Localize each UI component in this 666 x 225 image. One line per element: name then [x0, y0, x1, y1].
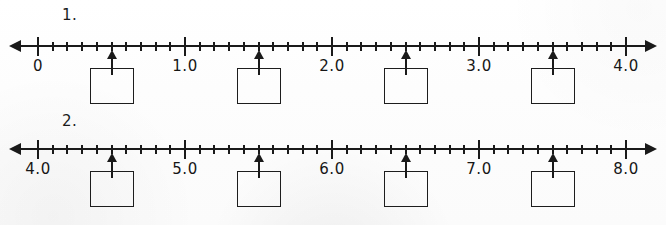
minor-tick	[375, 145, 377, 154]
minor-tick	[272, 42, 274, 51]
minor-tick	[596, 145, 598, 154]
minor-tick	[346, 42, 348, 51]
axis-tick-label: 2.0	[319, 57, 344, 75]
minor-tick	[316, 145, 318, 154]
minor-tick	[507, 42, 509, 51]
major-tick	[184, 140, 186, 159]
right-arrowhead-icon	[645, 143, 657, 155]
major-tick	[625, 140, 627, 159]
left-arrowhead-icon	[9, 143, 21, 155]
minor-tick	[213, 42, 215, 51]
minor-tick	[243, 42, 245, 51]
major-tick	[184, 37, 186, 56]
minor-tick	[596, 42, 598, 51]
minor-tick	[287, 145, 289, 154]
minor-tick	[537, 145, 539, 154]
minor-tick	[213, 145, 215, 154]
minor-tick	[243, 145, 245, 154]
minor-tick	[390, 42, 392, 51]
minor-tick	[375, 42, 377, 51]
minor-tick	[419, 145, 421, 154]
minor-tick	[390, 145, 392, 154]
left-arrowhead-icon	[9, 40, 21, 52]
minor-tick	[493, 145, 495, 154]
minor-tick	[566, 42, 568, 51]
minor-tick	[272, 145, 274, 154]
answer-box[interactable]	[90, 171, 134, 207]
minor-tick	[52, 145, 54, 154]
problem-number-label: 2.	[62, 112, 77, 130]
major-tick	[37, 37, 39, 56]
axis-tick-label: 3.0	[466, 57, 491, 75]
axis-tick-label: 8.0	[613, 160, 638, 178]
minor-tick	[228, 145, 230, 154]
minor-tick	[507, 145, 509, 154]
minor-tick	[537, 42, 539, 51]
answer-box[interactable]	[384, 68, 428, 104]
minor-tick	[155, 42, 157, 51]
answer-box[interactable]	[531, 171, 575, 207]
minor-tick	[96, 145, 98, 154]
minor-tick	[360, 145, 362, 154]
minor-tick	[463, 145, 465, 154]
minor-tick	[169, 42, 171, 51]
answer-box[interactable]	[531, 68, 575, 104]
minor-tick	[302, 145, 304, 154]
major-tick	[331, 37, 333, 56]
minor-tick	[81, 42, 83, 51]
answer-box[interactable]	[90, 68, 134, 104]
axis-tick-label: 4.0	[613, 57, 638, 75]
minor-tick	[316, 42, 318, 51]
minor-tick	[140, 145, 142, 154]
minor-tick	[434, 145, 436, 154]
minor-tick	[66, 42, 68, 51]
minor-tick	[449, 145, 451, 154]
minor-tick	[360, 42, 362, 51]
axis-tick-label: 4.0	[25, 160, 50, 178]
axis-tick-label: 1.0	[172, 57, 197, 75]
minor-tick	[419, 42, 421, 51]
major-tick	[625, 37, 627, 56]
minor-tick	[66, 145, 68, 154]
minor-tick	[140, 42, 142, 51]
minor-tick	[52, 42, 54, 51]
minor-tick	[581, 145, 583, 154]
major-tick	[331, 140, 333, 159]
minor-tick	[522, 145, 524, 154]
minor-tick	[493, 42, 495, 51]
answer-box[interactable]	[237, 68, 281, 104]
minor-tick	[302, 42, 304, 51]
minor-tick	[125, 145, 127, 154]
minor-tick	[155, 145, 157, 154]
major-tick	[478, 37, 480, 56]
minor-tick	[610, 42, 612, 51]
axis-tick-label: 0	[33, 57, 43, 75]
problem-number-label: 1.	[62, 6, 77, 24]
axis-tick-label: 6.0	[319, 160, 344, 178]
minor-tick	[449, 42, 451, 51]
minor-tick	[169, 145, 171, 154]
minor-tick	[610, 145, 612, 154]
minor-tick	[199, 42, 201, 51]
minor-tick	[434, 42, 436, 51]
major-tick	[37, 140, 39, 159]
minor-tick	[125, 42, 127, 51]
right-arrowhead-icon	[645, 40, 657, 52]
minor-tick	[522, 42, 524, 51]
minor-tick	[287, 42, 289, 51]
minor-tick	[566, 145, 568, 154]
minor-tick	[463, 42, 465, 51]
answer-box[interactable]	[384, 171, 428, 207]
minor-tick	[228, 42, 230, 51]
minor-tick	[581, 42, 583, 51]
minor-tick	[346, 145, 348, 154]
axis-tick-label: 7.0	[466, 160, 491, 178]
answer-box[interactable]	[237, 171, 281, 207]
minor-tick	[81, 145, 83, 154]
minor-tick	[96, 42, 98, 51]
axis-tick-label: 5.0	[172, 160, 197, 178]
minor-tick	[199, 145, 201, 154]
major-tick	[478, 140, 480, 159]
